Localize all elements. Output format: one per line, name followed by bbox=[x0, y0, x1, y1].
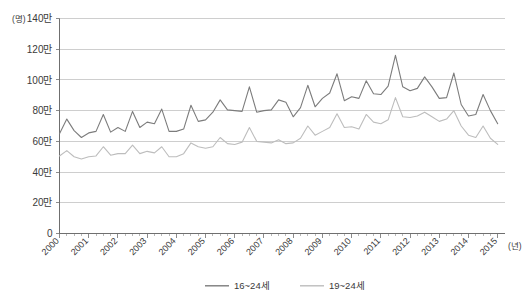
y-tick-label: 140만 bbox=[27, 13, 53, 24]
x-axis-unit-label: (년) bbox=[508, 241, 522, 251]
chart-background bbox=[0, 0, 532, 308]
chart-container: 020만40만60만80만100만120만140만 20002001200220… bbox=[0, 0, 532, 308]
y-tick-label: 120만 bbox=[27, 44, 53, 55]
y-axis-unit-label: (명) bbox=[12, 14, 26, 24]
y-tick-label: 100만 bbox=[27, 75, 53, 86]
legend-label: 19~24세 bbox=[329, 280, 365, 291]
legend-label: 16~24세 bbox=[234, 280, 270, 291]
y-tick-label: 60만 bbox=[32, 136, 52, 147]
y-tick-label: 80만 bbox=[32, 105, 52, 116]
line-chart: 020만40만60만80만100만120만140만 20002001200220… bbox=[0, 0, 532, 308]
y-tick-label: 20만 bbox=[32, 197, 52, 208]
y-tick-label: 40만 bbox=[32, 167, 52, 178]
